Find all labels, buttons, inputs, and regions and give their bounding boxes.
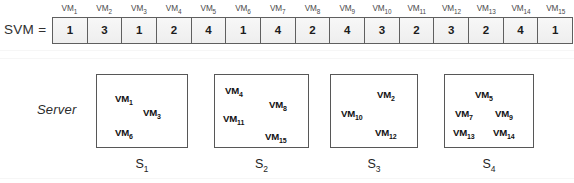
vm-header-label: VM12 xyxy=(434,1,469,16)
svm-vector-cell: 4 xyxy=(330,18,365,43)
vm-header-label: VM5 xyxy=(191,1,226,16)
vm-header-label: VM7 xyxy=(260,1,295,16)
scan-artifact-band xyxy=(0,178,574,179)
vm-chip: VM9 xyxy=(495,108,513,119)
vm-header-label: VM8 xyxy=(295,1,330,16)
svm-label: SVM = xyxy=(4,22,46,37)
svm-vector-cell: 1 xyxy=(122,18,157,43)
svm-vector-cell: 2 xyxy=(296,18,331,43)
vm-header-label: VM9 xyxy=(330,1,365,16)
vm-chip: VM11 xyxy=(223,113,244,124)
server-box: VM2VM10VM12 xyxy=(330,74,418,148)
vm-header-label: VM11 xyxy=(399,1,434,16)
vm-chip: VM10 xyxy=(341,108,363,119)
svm-vector-cell: 4 xyxy=(261,18,296,43)
vm-chip: VM13 xyxy=(453,127,475,138)
server-caption: S3 xyxy=(330,157,418,171)
server-box: VM1VM3VM6 xyxy=(96,74,188,148)
vm-chip: VM1 xyxy=(115,93,133,104)
vm-chip: VM12 xyxy=(375,127,397,138)
scan-artifact-band xyxy=(0,58,574,59)
svm-vector-cell: 1 xyxy=(226,18,261,43)
vm-chip: VM7 xyxy=(455,108,473,119)
vm-header-label: VM6 xyxy=(226,1,261,16)
svm-vector-cell: 1 xyxy=(53,18,88,43)
svm-vector-cell: 3 xyxy=(434,18,469,43)
vm-chip: VM3 xyxy=(143,107,161,118)
vm-chip: VM14 xyxy=(493,127,515,138)
svm-vector-cells: 131241424323241 xyxy=(52,17,573,44)
vm-chip: VM15 xyxy=(265,131,287,142)
vm-header-label: VM10 xyxy=(365,1,400,16)
server-caption: S1 xyxy=(96,157,188,171)
vm-header-row: VM1VM2VM3VM4VM5VM6VM7VM8VM9VM10VM11VM12V… xyxy=(52,1,573,16)
server-box: VM5VM7VM9VM13VM14 xyxy=(444,74,534,148)
svm-vector-cell: 4 xyxy=(192,18,227,43)
vm-header-label: VM15 xyxy=(538,1,573,16)
vm-chip: VM4 xyxy=(225,85,243,96)
server-row-label: Server xyxy=(37,102,77,117)
vm-header-label: VM14 xyxy=(504,1,539,16)
svm-vector-cell: 2 xyxy=(469,18,504,43)
svm-vector-cell: 2 xyxy=(157,18,192,43)
vm-chip: VM2 xyxy=(377,89,395,100)
vm-header-label: VM1 xyxy=(52,1,87,16)
svm-vector-cell: 4 xyxy=(504,18,539,43)
vm-chip: VM8 xyxy=(269,99,287,110)
vm-header-label: VM4 xyxy=(156,1,191,16)
scan-artifact-band xyxy=(0,50,574,51)
svm-vector-cell: 3 xyxy=(365,18,400,43)
server-box: VM4VM8VM11VM15 xyxy=(214,74,309,148)
svm-vector-cell: 2 xyxy=(400,18,435,43)
server-caption: S4 xyxy=(444,157,534,171)
svm-vector-cell: 1 xyxy=(538,18,572,43)
vm-chip: VM6 xyxy=(115,127,133,138)
server-caption: S2 xyxy=(214,157,309,171)
vm-chip: VM5 xyxy=(475,89,493,100)
svm-vector-cell: 3 xyxy=(88,18,123,43)
svm-server-mapping-figure: SVM = VM1VM2VM3VM4VM5VM6VM7VM8VM9VM10VM1… xyxy=(0,0,574,183)
vm-header-label: VM3 xyxy=(121,1,156,16)
svm-vector-section: SVM = VM1VM2VM3VM4VM5VM6VM7VM8VM9VM10VM1… xyxy=(0,0,574,50)
vm-header-label: VM2 xyxy=(87,1,122,16)
vm-header-label: VM13 xyxy=(469,1,504,16)
